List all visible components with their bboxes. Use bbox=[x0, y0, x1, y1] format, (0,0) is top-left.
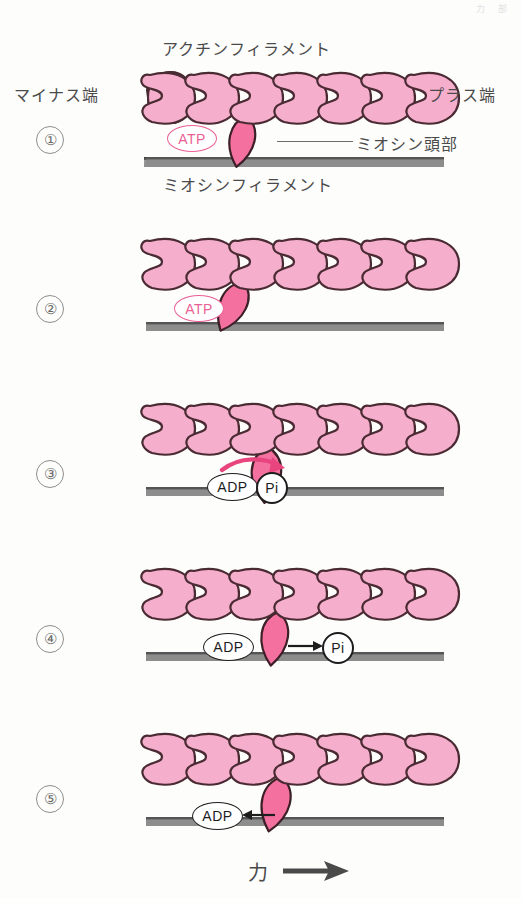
adp-badge-step5: ADP bbox=[192, 802, 243, 830]
pi-badge-step4: Pi bbox=[322, 632, 354, 664]
myosin-head-leader-line bbox=[277, 141, 353, 142]
bar-highlight bbox=[146, 652, 444, 654]
corner-faint-text: 力 部 bbox=[476, 2, 512, 15]
step-number-5: ⑤ bbox=[36, 785, 64, 813]
actin-filament-title: アクチンフィラメント bbox=[162, 36, 331, 60]
plus-end-label: プラス端 bbox=[428, 82, 496, 106]
actin-filament bbox=[141, 73, 459, 124]
pi-badge-step3: Pi bbox=[256, 472, 288, 504]
bar-highlight bbox=[146, 157, 444, 159]
actin-filament bbox=[141, 734, 459, 785]
bar-highlight bbox=[146, 817, 444, 819]
pi-release-arrow bbox=[288, 641, 323, 651]
figure-canvas: 力 部 アクチンフィラメント マイナス端 プラス端 ① ATP ミオシン頭部 ミ… bbox=[0, 0, 522, 899]
atp-badge-step2: ATP bbox=[174, 295, 224, 322]
bar-highlight bbox=[146, 487, 444, 489]
myosin-filament-bar bbox=[146, 322, 444, 331]
atp-badge-step1: ATP bbox=[167, 125, 217, 152]
myosin-filament-bar bbox=[146, 652, 444, 661]
myosin-filament-bar bbox=[146, 157, 444, 166]
myosin-filament-bar bbox=[146, 817, 444, 826]
force-arrow bbox=[283, 861, 349, 881]
step-number-3: ③ bbox=[36, 460, 64, 488]
actin-filament bbox=[141, 569, 459, 620]
step-number-2: ② bbox=[36, 295, 64, 323]
step-number-4: ④ bbox=[36, 625, 64, 653]
force-label: 力 bbox=[248, 857, 269, 886]
actin-filament bbox=[141, 239, 459, 290]
myosin-filament-title: ミオシンフィラメント bbox=[163, 172, 333, 196]
adp-badge-step4: ADP bbox=[203, 633, 254, 661]
actin-filament bbox=[141, 404, 459, 455]
myosin-filament-bar bbox=[146, 487, 444, 496]
adp-badge-step3: ADP bbox=[207, 473, 258, 501]
myosin-head-label: ミオシン頭部 bbox=[356, 131, 458, 155]
bar-highlight bbox=[146, 322, 444, 324]
step-number-1: ① bbox=[36, 126, 64, 154]
minus-end-label: マイナス端 bbox=[14, 82, 99, 106]
